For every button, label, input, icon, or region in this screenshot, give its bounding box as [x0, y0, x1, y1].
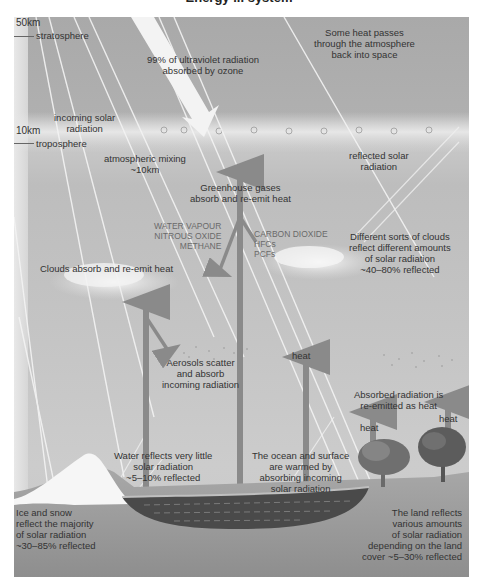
diagram-artwork [14, 17, 469, 577]
altitude-tick-50km [14, 36, 34, 37]
label-heat-to-space: Some heat passes through the atmosphere … [314, 27, 415, 60]
label-heat-right-tree: heat [439, 413, 458, 424]
label-uv-absorbed: 99% of ultraviolet radiation absorbed by… [147, 54, 259, 76]
label-greenhouse-gases: Greenhouse gases absorb and re-emit heat [190, 182, 291, 204]
label-gases-right: CARBON DIOXIDE HFCs PCFs [254, 229, 328, 259]
greenhouse-diagram: 50km stratosphere 10km troposphere Some … [14, 17, 469, 577]
troposphere-label: troposphere [36, 138, 87, 149]
label-land-reflects: The land reflects various amounts of sol… [362, 507, 462, 562]
label-aerosols: Aerosols scatter and absorb incoming rad… [162, 357, 239, 390]
label-reflected-solar: reflected solar radiation [349, 150, 409, 172]
label-water-reflects: Water reflects very little solar radiati… [114, 450, 212, 483]
altitude-10km: 10km [16, 125, 40, 136]
diagram-title: Energy ... system [0, 0, 478, 5]
altitude-50km: 50km [16, 17, 40, 28]
label-atmospheric-mixing: atmospheric mixing ~10km [104, 153, 186, 175]
label-incoming-solar: incoming solar radiation [54, 112, 115, 134]
label-heat-left-tree: heat [360, 422, 379, 433]
label-ocean-warmed: The ocean and surface are warmed by abso… [252, 450, 349, 494]
label-gases-left: WATER VAPOUR NITROUS OXIDE METHANE [154, 221, 221, 251]
altitude-tick-10km [14, 143, 34, 144]
label-clouds-reflect: Different sorts of clouds reflect differ… [349, 231, 451, 275]
label-clouds-absorb: Clouds absorb and re-emit heat [40, 263, 173, 274]
label-heat-mid: heat [292, 350, 311, 361]
label-ice-snow: Ice and snow reflect the majority of sol… [16, 507, 96, 551]
stratosphere-label: stratosphere [36, 30, 89, 41]
label-reemitted: Absorbed radiation is re-emitted as heat [354, 389, 443, 411]
